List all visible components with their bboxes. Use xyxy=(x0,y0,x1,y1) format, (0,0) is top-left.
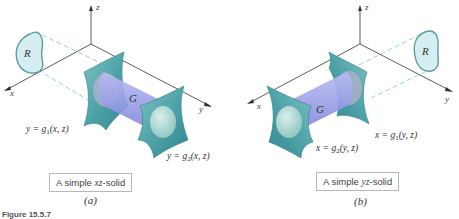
panel-simple-yz-solid: z x y R G x = g1(y, z) x = g2(y, z) A si… xyxy=(229,0,459,219)
caption-box: A simple xz-solid xyxy=(49,173,132,192)
x-axis-label: x xyxy=(10,88,14,98)
z-axis-label: z xyxy=(365,2,369,12)
y-axis-label: y xyxy=(199,104,203,114)
panel-sublabel: (b) xyxy=(354,195,367,207)
z-axis-label: z xyxy=(96,2,100,12)
lower-surface-equation: x = g1(y, z) xyxy=(375,130,417,142)
caption-box: A simple yz-solid xyxy=(316,172,399,191)
panel-sublabel: (a) xyxy=(84,194,97,206)
figure-label: Figure 15.5.7 xyxy=(2,210,51,219)
lower-surface-equation: y = g1(x, z) xyxy=(26,124,69,136)
upper-surface-equation: y = g2(x, z) xyxy=(167,151,210,163)
solid-label: G xyxy=(316,103,324,115)
region-label: R xyxy=(24,47,31,59)
panel-simple-xz-solid: z x y R G y = g1(x, z) y = g2(x, z) A si… xyxy=(0,0,230,219)
solid-label: G xyxy=(129,92,137,104)
x-axis-label: x xyxy=(257,101,261,111)
region-label: R xyxy=(422,45,429,57)
upper-surface-equation: x = g2(y, z) xyxy=(316,143,358,155)
y-axis-label: y xyxy=(445,94,449,104)
